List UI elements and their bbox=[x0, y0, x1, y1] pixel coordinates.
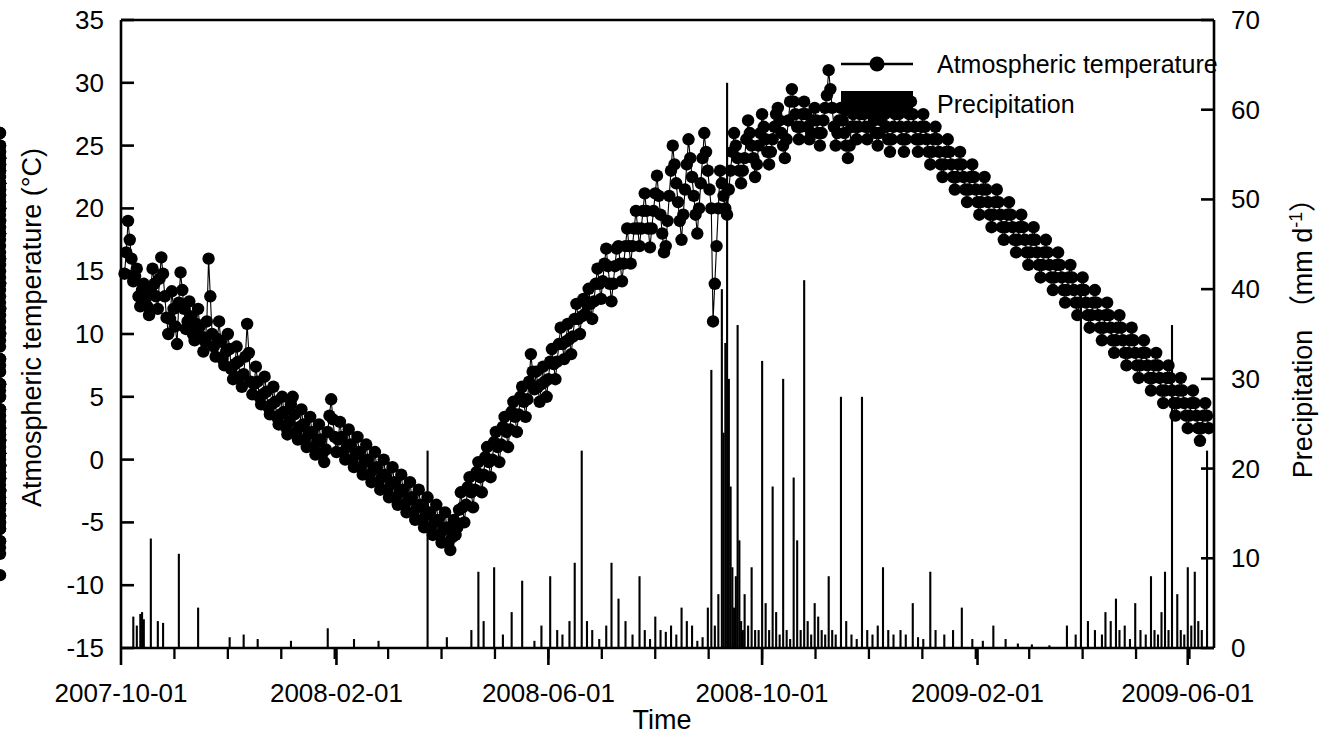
precipitation-bar bbox=[892, 635, 894, 648]
precipitation-bar bbox=[353, 639, 355, 648]
precipitation-bar bbox=[1139, 630, 1141, 648]
temperature-point bbox=[146, 262, 158, 274]
precipitation-bar bbox=[1087, 621, 1089, 648]
temperature-point bbox=[1052, 246, 1064, 258]
precipitation-bar bbox=[840, 397, 842, 648]
precipitation-bar bbox=[681, 608, 683, 648]
precipitation-bar bbox=[1066, 626, 1068, 648]
temperature-point bbox=[780, 133, 792, 145]
precipitation-bar bbox=[1080, 289, 1082, 648]
legend-marker-swatch bbox=[870, 57, 885, 72]
legend-bar-swatch bbox=[841, 91, 913, 116]
temperature-point bbox=[721, 208, 733, 220]
temperature-point bbox=[625, 257, 637, 269]
precipitation-bar bbox=[243, 635, 245, 648]
y-axis-right-tick-label: 10 bbox=[1231, 543, 1260, 573]
precipitation-bar bbox=[850, 635, 852, 648]
precipitation-bar bbox=[1118, 630, 1120, 648]
precipitation-bar bbox=[929, 572, 931, 648]
precipitation-bar bbox=[789, 639, 791, 648]
temperature-point bbox=[772, 102, 784, 114]
temperature-point bbox=[1101, 296, 1113, 308]
precipitation-bar bbox=[631, 635, 633, 648]
temperature-point bbox=[814, 139, 826, 151]
precipitation-bar bbox=[1190, 626, 1192, 648]
precipitation-bar bbox=[665, 632, 667, 648]
temperature-point bbox=[779, 152, 791, 164]
temperature-point bbox=[842, 152, 854, 164]
precipitation-bar bbox=[1005, 639, 1007, 648]
precipitation-bar bbox=[568, 621, 570, 648]
precipitation-bar bbox=[654, 617, 656, 648]
precipitation-bar bbox=[702, 637, 704, 648]
temperature-point bbox=[243, 347, 255, 359]
temperature-point bbox=[192, 303, 204, 315]
temperature-point bbox=[1113, 309, 1125, 321]
temperature-point bbox=[871, 139, 883, 151]
temperature-point bbox=[786, 83, 798, 95]
temperature-point bbox=[152, 303, 164, 315]
temperature-point bbox=[1162, 359, 1174, 371]
temperature-point bbox=[549, 373, 561, 385]
x-axis-tick-label: 2008-02-01 bbox=[270, 678, 403, 708]
temperature-point bbox=[124, 234, 136, 246]
precipitation-bar bbox=[814, 603, 816, 648]
temperature-point bbox=[688, 190, 700, 202]
temperature-point bbox=[1040, 234, 1052, 246]
temperature-point bbox=[991, 183, 1003, 195]
precipitation-bar bbox=[1104, 612, 1106, 648]
temperature-point bbox=[204, 290, 216, 302]
temperature-point bbox=[493, 456, 505, 468]
y-axis-right-ticks-group: 010203040506070 bbox=[1201, 5, 1260, 663]
precipitation-bar bbox=[229, 637, 231, 648]
temperature-point bbox=[574, 328, 586, 340]
precipitation-bar bbox=[887, 630, 889, 648]
temperature-point bbox=[176, 284, 188, 296]
precipitation-bar bbox=[178, 554, 180, 648]
temperature-point bbox=[824, 83, 836, 95]
precipitation-bar bbox=[1101, 635, 1103, 648]
plot-canvas: -15-10-505101520253035 010203040506070 2… bbox=[0, 0, 1325, 752]
temperature-point bbox=[707, 315, 719, 327]
precipitation-bar bbox=[132, 617, 134, 648]
temperature-point bbox=[122, 215, 134, 227]
precipitation-bar bbox=[493, 567, 495, 648]
temperature-point bbox=[728, 127, 740, 139]
temperature-point bbox=[710, 240, 722, 252]
x-axis-tick-label: 2009-02-01 bbox=[911, 678, 1044, 708]
precipitation-bar bbox=[1150, 576, 1152, 648]
temperature-point bbox=[213, 315, 225, 327]
temperature-point bbox=[521, 393, 533, 405]
temperature-point bbox=[0, 569, 6, 581]
precipitation-bar bbox=[877, 626, 879, 648]
precipitation-bar bbox=[1164, 572, 1166, 648]
precipitation-bar bbox=[793, 478, 795, 648]
precipitation-bar bbox=[257, 639, 259, 648]
temperature-point bbox=[1201, 409, 1213, 421]
temperature-point bbox=[230, 340, 242, 352]
precipitation-bar bbox=[717, 594, 719, 648]
y-axis-right-tick-label: 50 bbox=[1231, 184, 1260, 214]
temperature-polyline bbox=[125, 70, 1209, 550]
precipitation-bar bbox=[817, 617, 819, 648]
temperature-point bbox=[258, 371, 270, 383]
temperature-point bbox=[458, 516, 470, 528]
temperature-point bbox=[511, 426, 523, 438]
y-axis-right-tick-label: 40 bbox=[1231, 274, 1260, 304]
legend-label-temperature: Atmospheric temperature bbox=[937, 50, 1218, 78]
legend-label-precipitation: Precipitation bbox=[937, 90, 1075, 118]
precipitation-bar bbox=[162, 623, 164, 648]
precipitation-bar bbox=[1157, 635, 1159, 648]
temperature-point bbox=[703, 183, 715, 195]
precipitation-bar bbox=[617, 599, 619, 648]
temperature-point bbox=[444, 544, 456, 556]
temperature-point bbox=[660, 240, 672, 252]
temperature-point bbox=[698, 127, 710, 139]
precipitation-bar bbox=[912, 603, 914, 648]
precipitation-bar bbox=[605, 626, 607, 648]
temperature-point bbox=[320, 443, 332, 455]
precipitation-bar bbox=[591, 630, 593, 648]
temperature-point bbox=[586, 313, 598, 325]
precipitation-bar bbox=[831, 630, 833, 648]
temperature-point bbox=[723, 183, 735, 195]
